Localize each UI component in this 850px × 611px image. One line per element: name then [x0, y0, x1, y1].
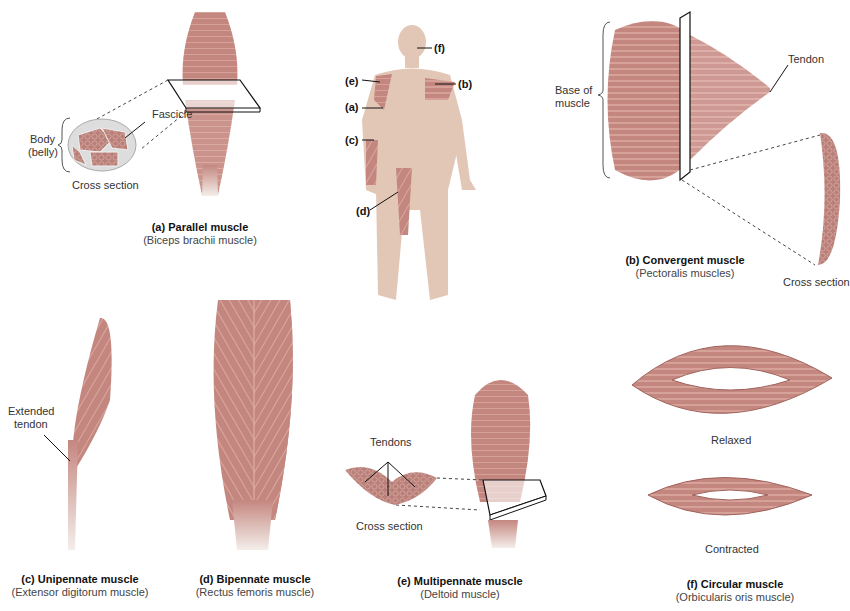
marker-c: (c): [345, 134, 358, 146]
caption-title: (d) Bipennate muscle: [180, 573, 330, 586]
caption-subtitle: (Pectoralis muscles): [610, 267, 760, 280]
caption-subtitle: (Rectus femoris muscle): [180, 586, 330, 599]
convergent-muscle-illustration: [598, 12, 840, 265]
marker-b: (b): [458, 78, 472, 90]
tendon-label-c: tendon: [14, 418, 48, 431]
caption-circular: (f) Circular muscle (Orbicularis oris mu…: [660, 578, 810, 604]
marker-a: (a): [345, 101, 358, 113]
marker-e: (e): [345, 75, 358, 87]
extended-label: Extended: [8, 405, 54, 418]
fascicle-label: Fascicle: [152, 108, 192, 121]
caption-subtitle: (Biceps brachii muscle): [100, 234, 300, 247]
base-of-label: Base of: [555, 84, 592, 97]
caption-subtitle: (Extensor digitorum muscle): [0, 586, 160, 599]
human-body-illustration: [362, 25, 476, 300]
caption-title: (e) Multipennate muscle: [380, 575, 540, 588]
cross-section-label-a: Cross section: [72, 179, 139, 192]
diagram-art: [0, 0, 850, 611]
cross-section-label-b: Cross section: [783, 276, 850, 289]
relaxed-label: Relaxed: [711, 434, 751, 447]
caption-parallel: (a) Parallel muscle (Biceps brachii musc…: [100, 221, 300, 247]
tendons-label: Tendons: [370, 436, 412, 449]
caption-title: (b) Convergent muscle: [610, 254, 760, 267]
caption-bipennate: (d) Bipennate muscle (Rectus femoris mus…: [180, 573, 330, 599]
circular-muscle-illustration: [632, 346, 832, 515]
marker-f: (f): [434, 42, 445, 54]
bipennate-muscle-illustration: [214, 300, 293, 550]
body-label: Body: [30, 133, 55, 146]
belly-label: (belly): [28, 146, 58, 159]
caption-subtitle: (Orbicularis oris muscle): [660, 591, 810, 604]
marker-d: (d): [356, 205, 370, 217]
caption-unipennate: (c) Unipennate muscle (Extensor digitoru…: [0, 573, 160, 599]
cross-section-label-e: Cross section: [356, 520, 423, 533]
parallel-muscle-illustration: [58, 12, 260, 196]
unipennate-muscle-illustration: [44, 318, 112, 550]
muscle-label: muscle: [555, 97, 590, 110]
caption-subtitle: (Deltoid muscle): [380, 588, 540, 601]
caption-title: (c) Unipennate muscle: [0, 573, 160, 586]
caption-convergent: (b) Convergent muscle (Pectoralis muscle…: [610, 254, 760, 280]
contracted-label: Contracted: [705, 543, 759, 556]
tendon-label: Tendon: [788, 53, 824, 66]
caption-title: (f) Circular muscle: [660, 578, 810, 591]
caption-multipennate: (e) Multipennate muscle (Deltoid muscle): [380, 575, 540, 601]
caption-title: (a) Parallel muscle: [100, 221, 300, 234]
